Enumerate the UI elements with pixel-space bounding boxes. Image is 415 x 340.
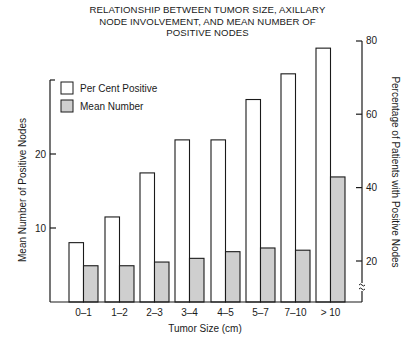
bar-percent-positive [281, 74, 296, 302]
legend-label-percent: Per Cent Positive [80, 83, 158, 94]
bar-mean-number [155, 262, 170, 302]
left-tick-label: 20 [35, 149, 47, 160]
bar-percent-positive [175, 140, 190, 302]
right-tick-label: 40 [366, 182, 378, 193]
left-axis: 1020 Mean Number of Positive Nodes [17, 80, 56, 302]
bar-mean-number [331, 177, 346, 302]
right-tick-label: 60 [366, 109, 378, 120]
x-tick-label: 3–4 [181, 307, 198, 318]
x-tick-label: 4–5 [217, 307, 234, 318]
legend: Per Cent Positive Mean Number [61, 82, 158, 112]
bar-percent-positive [105, 217, 120, 302]
x-tick-label: 2–3 [146, 307, 163, 318]
axis-break-icon [359, 284, 365, 290]
bar-mean-number [120, 266, 135, 302]
bar-percent-positive [140, 173, 155, 302]
bar-percent-positive [246, 100, 261, 302]
x-tick-label: 5–7 [252, 307, 269, 318]
bar-percent-positive [69, 243, 84, 302]
x-tick-label: 0–1 [75, 307, 92, 318]
legend-swatch-mean [61, 100, 73, 112]
legend-label-mean: Mean Number [80, 101, 144, 112]
bar-chart: 1020 Mean Number of Positive Nodes 20406… [0, 0, 415, 340]
bar-mean-number [296, 250, 311, 302]
x-tick-label: > 10 [321, 307, 341, 318]
x-axis-title: Tumor Size (cm) [168, 323, 242, 334]
right-axis: 20406080 Percentage of Patients with Pos… [356, 35, 401, 302]
bar-mean-number [190, 258, 205, 302]
left-tick-label: 10 [35, 223, 47, 234]
bar-mean-number [261, 248, 276, 302]
right-tick-label: 20 [366, 256, 378, 267]
right-axis-title: Percentage of Patients with Positive Nod… [390, 76, 401, 267]
bar-mean-number [84, 266, 99, 302]
left-axis-title: Mean Number of Positive Nodes [17, 118, 28, 262]
right-tick-label: 80 [366, 35, 378, 46]
bar-percent-positive [211, 140, 226, 302]
x-tick-label: 7–10 [284, 307, 307, 318]
x-tick-labels: 0–11–22–33–44–55–77–10> 10 [75, 307, 341, 318]
legend-swatch-percent [61, 82, 73, 94]
bar-mean-number [226, 252, 241, 302]
x-tick-label: 1–2 [111, 307, 128, 318]
bar-percent-positive [316, 48, 331, 302]
